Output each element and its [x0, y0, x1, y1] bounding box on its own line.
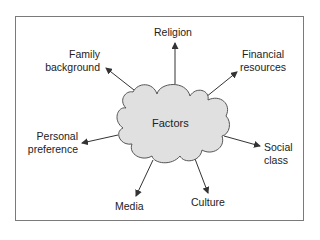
node-culture: Culture	[191, 196, 225, 209]
node-personal-preference: Personal preference	[26, 130, 78, 156]
node-family-background: Family background	[37, 48, 100, 74]
node-social-class: Social class	[264, 141, 293, 167]
node-financial-resources: Financial resources	[240, 48, 286, 74]
node-religion: Religion	[154, 26, 192, 39]
arrow-media	[136, 160, 153, 196]
arrow-personal-preference	[82, 135, 118, 143]
arrow-financial-resources	[206, 72, 237, 97]
node-media: Media	[115, 200, 144, 213]
arrow-family-background	[106, 68, 134, 90]
center-label-factors: Factors	[152, 117, 189, 129]
arrow-social-class	[224, 136, 260, 146]
